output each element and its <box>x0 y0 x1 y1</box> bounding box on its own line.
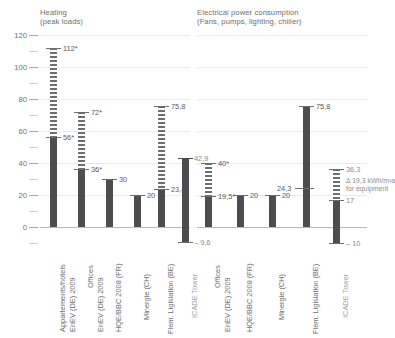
value-label-electrical-4-top: 75,8 <box>316 102 330 111</box>
y-tick-label-40: 40 <box>1 159 27 168</box>
bar-electrical-3-solid <box>269 195 276 227</box>
gridline-100 <box>40 67 190 68</box>
value-label-heating-6-negative: – 9,6 <box>194 238 210 247</box>
y-tick-minor-10 <box>29 211 38 212</box>
value-label-electrical-5-negative: – 10 <box>346 239 360 248</box>
gridline-80-r <box>197 99 367 100</box>
y-tick-major-40 <box>29 163 38 164</box>
cat-label-electrical-1-bottom: EnEV (DE) 2009 <box>223 277 232 332</box>
y-tick-label-120: 120 <box>1 31 27 40</box>
chart-title-electrical-line1: Electrical power consumption <box>197 8 299 17</box>
bar-electrical-4-cap-mid <box>295 188 314 189</box>
bar-electrical-4-solid <box>303 106 310 227</box>
bar-electrical-1-solid <box>205 196 212 227</box>
bar-heating-2-solid <box>78 169 85 227</box>
value-label-heating-5-dashed: 75,8 <box>171 102 185 111</box>
annotation-line1: Δ 19,3 kWh/m²a <box>346 177 395 184</box>
bar-electrical-5-cap-bottom <box>329 243 344 244</box>
bar-electrical-1-dashed <box>205 163 212 196</box>
chart-title-heating-line2: (peak loads) <box>40 17 83 26</box>
value-label-heating-4: 20 <box>147 191 155 200</box>
chart-title-electrical-line2: (Fans, pumps, lighting, chiller) <box>197 17 302 26</box>
y-tick-major-80 <box>29 99 38 100</box>
bar-heating-5-dashed <box>158 106 165 189</box>
gridline-zero <box>40 227 190 228</box>
bar-heating-2-cap-top <box>74 112 89 113</box>
y-tick-label-20: 20 <box>1 191 27 200</box>
y-tick-minor-neg10 <box>29 243 38 244</box>
bar-heating-6-cap-top <box>178 158 193 159</box>
cat-label-electrical-4: Flem. Ligislation (BE) <box>311 264 320 334</box>
bar-heating-4-cap <box>130 195 145 196</box>
bar-heating-2-dashed <box>78 112 85 169</box>
value-label-electrical-5-dashed: 36,3 <box>346 165 360 174</box>
gridline-60-r <box>197 131 367 132</box>
bar-heating-6-cap-bottom <box>178 242 193 243</box>
bar-electrical-2-cap <box>233 195 248 196</box>
bar-heating-5-solid <box>158 189 165 227</box>
cat-label-heating-2-bottom: EnEV (DE) 2009 <box>96 277 105 332</box>
chart-title-heating-line1: Heating <box>40 8 67 17</box>
bar-heating-1-cap-mid <box>46 137 61 138</box>
y-tick-minor-110 <box>29 51 38 52</box>
annotation-line2: for equipment <box>346 185 388 192</box>
bar-electrical-2-solid <box>237 195 244 227</box>
bar-electrical-1-cap-top <box>201 163 216 164</box>
value-label-heating-1-dashed: 112* <box>63 44 78 53</box>
y-tick-label-0: 0 <box>1 223 27 232</box>
bar-electrical-5-cap-top <box>329 169 344 170</box>
bar-heating-3-solid <box>106 179 113 227</box>
y-tick-major-0 <box>29 227 38 228</box>
y-tick-minor-90 <box>29 83 38 84</box>
bar-electrical-5-dashed <box>333 169 340 200</box>
y-tick-major-100 <box>29 67 38 68</box>
bar-electrical-5-cap-mid <box>329 200 344 201</box>
gridline-20 <box>40 195 190 196</box>
y-tick-major-20 <box>29 195 38 196</box>
cat-label-electrical-1-top: Offices <box>213 265 222 288</box>
bar-heating-1-dashed <box>50 48 57 137</box>
y-tick-major-120 <box>29 35 38 36</box>
y-tick-label-100: 100 <box>1 63 27 72</box>
y-tick-minor-50 <box>29 147 38 148</box>
value-label-electrical-2: 20 <box>250 191 258 200</box>
chart-title-heating: Heating(peak loads) <box>40 8 83 27</box>
bar-heating-1-solid <box>50 137 57 227</box>
cat-label-heating-4: Minergie (CH) <box>142 274 151 320</box>
bar-electrical-1-cap-mid <box>201 196 216 197</box>
gridline-zero-r <box>197 227 367 228</box>
cat-label-electrical-2: HQE/BBC 2008 (FR) <box>245 263 254 332</box>
bar-heating-3-cap <box>102 179 117 180</box>
annotation-equipment-delta: Δ 19,3 kWh/m²afor equipment <box>346 177 395 193</box>
bar-heating-4-solid <box>134 195 141 227</box>
gridline-40 <box>40 163 190 164</box>
bar-heating-1-cap-top <box>46 48 61 49</box>
gridline-100-r <box>197 67 367 68</box>
y-tick-minor-30 <box>29 179 38 180</box>
y-tick-major-60 <box>29 131 38 132</box>
cat-label-heating-5: Flem. Ligislation (BE) <box>166 264 175 334</box>
value-label-electrical-5-solid: 17 <box>346 196 354 205</box>
gridline-120 <box>40 35 190 36</box>
value-label-electrical-4-solid: 24,3 <box>277 184 291 193</box>
bar-heating-5-cap-mid <box>154 189 169 190</box>
bar-heating-5-cap-top <box>154 106 169 107</box>
bar-electrical-4-cap-top <box>299 106 314 107</box>
value-label-heating-1-solid: 56* <box>63 133 74 142</box>
plot-electrical: 40* 19,5* 20 20 75,8 24,3 36,3 17 – 10 Δ… <box>197 30 367 230</box>
y-tick-label-80: 80 <box>1 95 27 104</box>
plot-heating: 112* 56* 72* 36* 30 20 75,8 23,4 42,9 – … <box>40 30 190 230</box>
cat-label-electrical-3: Minergie (CH) <box>277 274 286 320</box>
cat-label-heating-6: ICADE Tower <box>190 274 199 318</box>
bar-heating-2-cap-mid <box>74 169 89 170</box>
cat-label-electrical-5: ICADE Tower <box>341 274 350 318</box>
y-tick-label-60: 60 <box>1 127 27 136</box>
gridline-80 <box>40 99 190 100</box>
y-tick-minor-70 <box>29 115 38 116</box>
bar-electrical-3-cap <box>265 195 280 196</box>
value-label-heating-3: 30 <box>119 175 127 184</box>
value-label-electrical-1-solid: 19,5* <box>218 192 235 201</box>
value-label-heating-2-solid: 36* <box>91 165 102 174</box>
bar-heating-6-solid <box>182 158 189 242</box>
